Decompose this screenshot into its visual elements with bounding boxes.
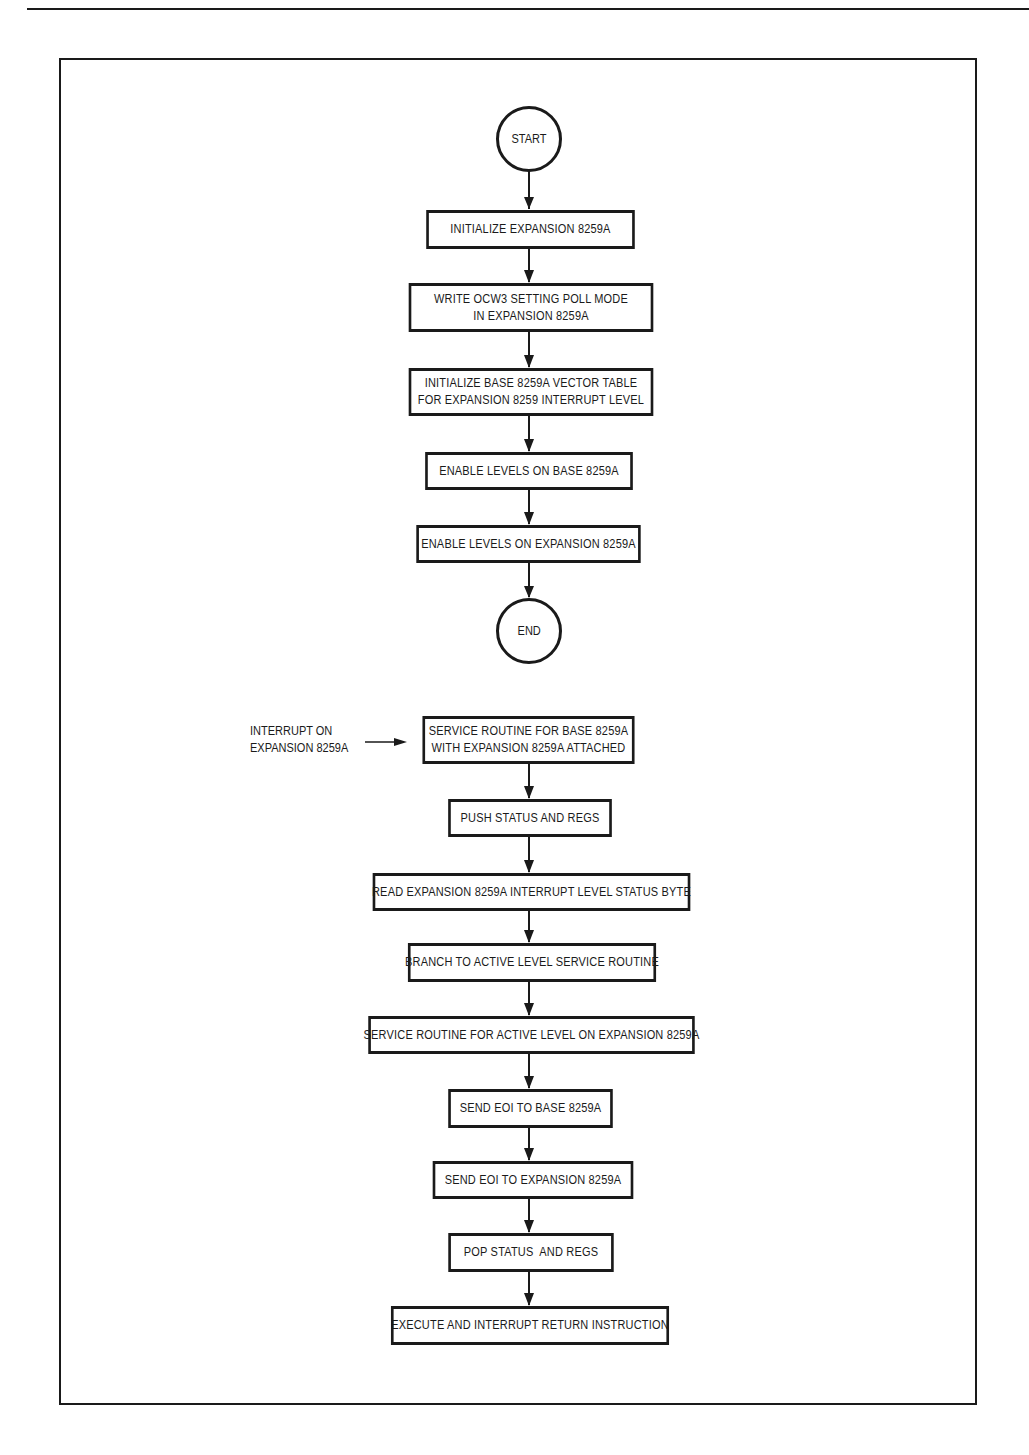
step-init-base-vector-table: INITIALIZE BASE 8259A VECTOR TABLE FOR E… xyxy=(409,368,654,416)
step-service-routine-base: SERVICE ROUTINE FOR BASE 8259A WITH EXPA… xyxy=(422,716,634,764)
step-send-eoi-base: SEND EOI TO BASE 8259A xyxy=(448,1089,613,1128)
step-text: SERVICE ROUTINE FOR ACTIVE LEVEL ON EXPA… xyxy=(364,1027,700,1044)
step-push-status: PUSH STATUS AND REGS xyxy=(448,799,612,837)
step-write-ocw3: WRITE OCW3 SETTING POLL MODE IN EXPANSIO… xyxy=(409,283,654,332)
step-text: ENABLE LEVELS ON BASE 8259A xyxy=(439,463,619,480)
step-initialize-expansion: INITIALIZE EXPANSION 8259A xyxy=(426,210,635,249)
step-text: BRANCH TO ACTIVE LEVEL SERVICE ROUTINE xyxy=(405,954,659,971)
end-terminal: END xyxy=(496,598,562,664)
start-label: START xyxy=(511,132,546,146)
step-text: ENABLE LEVELS ON EXPANSION 8259A xyxy=(421,536,636,553)
interrupt-entry-label: INTERRUPT ON EXPANSION 8259A xyxy=(250,723,348,757)
step-text-line2: WITH EXPANSION 8259A ATTACHED xyxy=(429,740,628,757)
step-text: POP STATUS AND REGS xyxy=(464,1244,598,1261)
step-text: SEND EOI TO EXPANSION 8259A xyxy=(445,1172,622,1189)
step-text: INITIALIZE EXPANSION 8259A xyxy=(450,221,610,238)
step-pop-status: POP STATUS AND REGS xyxy=(448,1233,613,1272)
step-service-active-level: SERVICE ROUTINE FOR ACTIVE LEVEL ON EXPA… xyxy=(368,1016,694,1054)
step-text: PUSH STATUS AND REGS xyxy=(461,810,600,827)
step-text: SEND EOI TO BASE 8259A xyxy=(460,1100,602,1117)
step-execute-return: EXECUTE AND INTERRUPT RETURN INSTRUCTION xyxy=(391,1306,669,1345)
step-text-line1: SERVICE ROUTINE FOR BASE 8259A xyxy=(429,723,628,740)
step-text-line1: INITIALIZE BASE 8259A VECTOR TABLE xyxy=(418,375,644,392)
step-text: EXECUTE AND INTERRUPT RETURN INSTRUCTION xyxy=(391,1317,669,1334)
step-enable-levels-base: ENABLE LEVELS ON BASE 8259A xyxy=(425,452,633,490)
step-read-status-byte: READ EXPANSION 8259A INTERRUPT LEVEL STA… xyxy=(373,873,691,911)
end-label: END xyxy=(517,624,540,638)
entry-label-line1: INTERRUPT ON xyxy=(250,723,348,740)
step-send-eoi-expansion: SEND EOI TO EXPANSION 8259A xyxy=(433,1161,634,1199)
step-text-line2: IN EXPANSION 8259A xyxy=(434,308,628,325)
entry-label-line2: EXPANSION 8259A xyxy=(250,740,348,757)
step-enable-levels-expansion: ENABLE LEVELS ON EXPANSION 8259A xyxy=(416,525,640,563)
step-text: READ EXPANSION 8259A INTERRUPT LEVEL STA… xyxy=(372,884,691,901)
step-text-line2: FOR EXPANSION 8259 INTERRUPT LEVEL xyxy=(418,392,644,409)
start-terminal: START xyxy=(496,106,562,172)
step-branch-active-level: BRANCH TO ACTIVE LEVEL SERVICE ROUTINE xyxy=(408,943,656,982)
step-text-line1: WRITE OCW3 SETTING POLL MODE xyxy=(434,291,628,308)
